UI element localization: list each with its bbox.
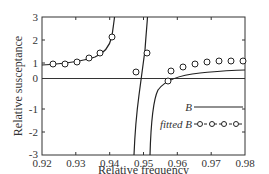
y-tick-labels: 3 2 1 0 -1 -2 -3 xyxy=(29,11,39,160)
legend-markers-fitted-b xyxy=(198,122,239,127)
legend-label-b: B xyxy=(185,101,192,113)
svg-text:3: 3 xyxy=(33,11,39,23)
svg-text:-3: -3 xyxy=(29,148,39,160)
svg-text:1: 1 xyxy=(33,57,39,69)
legend-label-fitted-b: fitted B xyxy=(160,118,192,130)
svg-text:0.98: 0.98 xyxy=(235,157,255,169)
y-ticks xyxy=(42,40,245,132)
series-fitted-b-markers xyxy=(50,34,246,84)
svg-text:0.93: 0.93 xyxy=(66,157,86,169)
legend: B fitted B xyxy=(160,101,243,130)
svg-text:0.97: 0.97 xyxy=(202,157,222,169)
svg-text:2: 2 xyxy=(33,34,39,46)
plot-frame xyxy=(42,17,245,155)
y-axis-label: Relative susceptance xyxy=(11,36,25,136)
x-axis-label: Relative frequency xyxy=(98,163,189,174)
series-b xyxy=(42,17,245,155)
svg-text:-1: -1 xyxy=(29,103,38,115)
chart: 0.92 0.93 0.94 0.95 0.96 0.97 0.98 3 2 1… xyxy=(0,0,269,174)
svg-text:-2: -2 xyxy=(29,126,38,138)
svg-text:0: 0 xyxy=(33,72,39,84)
x-ticks xyxy=(76,17,211,155)
